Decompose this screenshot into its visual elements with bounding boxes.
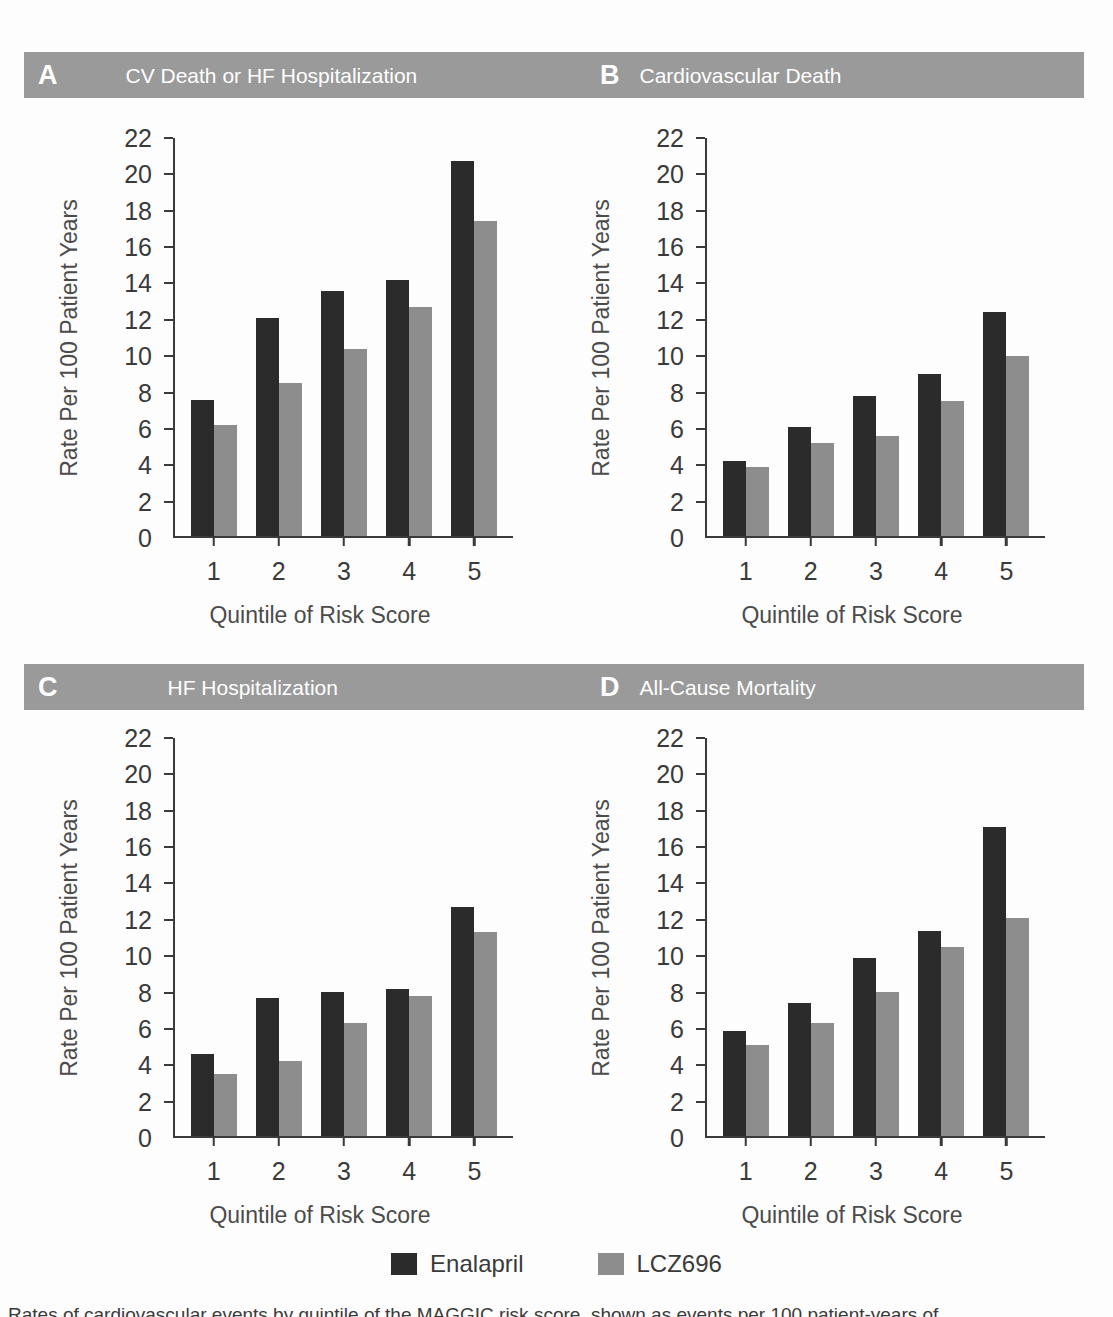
panel-title-a: CV Death or HF Hospitalization xyxy=(126,65,418,86)
bar-enalapril xyxy=(723,1031,746,1136)
y-tick-mark xyxy=(164,246,173,248)
bar-group: 4 xyxy=(918,138,964,536)
y-tick-mark xyxy=(164,882,173,884)
panel-header-a: A CV Death or HF Hospitalization xyxy=(38,52,417,98)
bar-groups-b: 12345 xyxy=(707,138,1045,536)
y-tick-mark xyxy=(696,282,705,284)
y-axis-ticks-a: 0246810121416182022 xyxy=(110,138,164,538)
y-tick-mark xyxy=(164,773,173,775)
x-tick-mark xyxy=(408,536,411,546)
plot-wrapper-d: 0246810121416182022 12345 xyxy=(642,738,1062,1158)
panel-header-c: C HF Hospitalization xyxy=(38,664,338,710)
y-tick-mark xyxy=(164,319,173,321)
legend-label-lcz696: LCZ696 xyxy=(637,1252,722,1276)
y-tick-mark xyxy=(164,501,173,503)
y-tick-label: 14 xyxy=(124,271,152,296)
y-tick-label: 20 xyxy=(656,162,684,187)
plot-wrapper-a: 0246810121416182022 12345 xyxy=(110,138,530,558)
bar-lcz696 xyxy=(279,1061,302,1136)
y-tick-label: 8 xyxy=(138,380,152,405)
plot-area-d: 12345 xyxy=(705,738,1045,1138)
chart-panel-d: Rate Per 100 Patient Years 0246810121416… xyxy=(556,728,1101,1228)
bar-lcz696 xyxy=(1006,918,1029,1136)
bar-enalapril xyxy=(723,461,746,536)
y-tick-label: 6 xyxy=(670,416,684,441)
y-tick-mark xyxy=(164,392,173,394)
y-tick-label: 18 xyxy=(124,798,152,823)
bar-group: 3 xyxy=(853,738,899,1136)
x-tick-label: 4 xyxy=(934,1159,948,1184)
plot-area-b: 12345 xyxy=(705,138,1045,538)
y-tick-label: 14 xyxy=(656,271,684,296)
y-tick-label: 20 xyxy=(124,762,152,787)
y-tick-label: 16 xyxy=(656,235,684,260)
bar-enalapril xyxy=(191,400,214,536)
x-tick-mark xyxy=(1005,1136,1008,1146)
y-tick-label: 20 xyxy=(656,762,684,787)
panel-letter-a: A xyxy=(38,62,58,89)
bar-enalapril xyxy=(853,396,876,536)
bar-enalapril xyxy=(386,280,409,536)
y-tick-mark xyxy=(696,846,705,848)
y-tick-label: 8 xyxy=(670,980,684,1005)
x-tick-label: 3 xyxy=(337,1159,351,1184)
x-tick-label: 1 xyxy=(207,1159,221,1184)
y-tick-label: 10 xyxy=(124,344,152,369)
y-tick-mark xyxy=(164,137,173,139)
y-tick-mark xyxy=(164,846,173,848)
bar-lcz696 xyxy=(876,992,899,1136)
y-tick-label: 4 xyxy=(138,453,152,478)
y-tick-mark xyxy=(696,1028,705,1030)
y-tick-mark xyxy=(164,992,173,994)
y-tick-mark xyxy=(164,1064,173,1066)
x-tick-mark xyxy=(744,1136,747,1146)
y-tick-mark xyxy=(164,464,173,466)
y-tick-label: 22 xyxy=(124,126,152,151)
y-tick-mark xyxy=(696,882,705,884)
x-tick-label: 5 xyxy=(999,559,1013,584)
y-tick-label: 0 xyxy=(670,526,684,551)
bar-enalapril xyxy=(983,312,1006,536)
x-tick-label: 3 xyxy=(337,559,351,584)
bar-lcz696 xyxy=(474,932,497,1136)
x-tick-label: 4 xyxy=(402,1159,416,1184)
y-tick-mark xyxy=(164,919,173,921)
panel-title-c: HF Hospitalization xyxy=(168,677,338,698)
bar-enalapril xyxy=(983,827,1006,1136)
panel-header-b: B Cardiovascular Death xyxy=(600,52,841,98)
y-tick-label: 0 xyxy=(138,1126,152,1151)
y-tick-mark xyxy=(696,919,705,921)
y-tick-label: 4 xyxy=(138,1053,152,1078)
bar-lcz696 xyxy=(474,221,497,536)
y-tick-mark xyxy=(164,428,173,430)
y-tick-label: 10 xyxy=(656,344,684,369)
bar-group: 3 xyxy=(853,138,899,536)
bar-lcz696 xyxy=(409,307,432,536)
bar-group: 1 xyxy=(723,738,769,1136)
x-tick-label: 5 xyxy=(999,1159,1013,1184)
legend-label-enalapril: Enalapril xyxy=(430,1252,523,1276)
bar-group: 3 xyxy=(321,738,367,1136)
x-tick-mark xyxy=(940,536,943,546)
x-tick-mark xyxy=(278,1136,281,1146)
x-axis-label-d: Quintile of Risk Score xyxy=(642,1202,1062,1229)
bar-enalapril xyxy=(321,992,344,1136)
y-tick-label: 12 xyxy=(656,907,684,932)
y-tick-label: 4 xyxy=(670,1053,684,1078)
x-tick-mark xyxy=(278,536,281,546)
y-tick-label: 8 xyxy=(670,380,684,405)
y-tick-mark xyxy=(164,955,173,957)
x-tick-mark xyxy=(212,1136,215,1146)
bar-group: 4 xyxy=(386,738,432,1136)
bar-enalapril xyxy=(451,161,474,536)
legend-swatch-icon-lcz696 xyxy=(598,1253,624,1275)
x-axis-label-c: Quintile of Risk Score xyxy=(110,1202,530,1229)
bar-enalapril xyxy=(321,291,344,536)
bar-group: 3 xyxy=(321,138,367,536)
x-tick-label: 5 xyxy=(467,559,481,584)
y-tick-mark xyxy=(164,1028,173,1030)
bar-lcz696 xyxy=(344,349,367,536)
bar-enalapril xyxy=(386,989,409,1136)
bar-enalapril xyxy=(918,931,941,1136)
figure-root: A CV Death or HF Hospitalization B Cardi… xyxy=(0,0,1113,1317)
